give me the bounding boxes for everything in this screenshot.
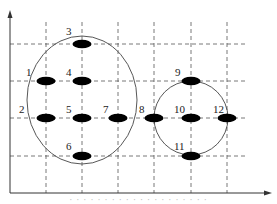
node-label: 8 — [139, 103, 145, 115]
node-marker-icon — [109, 114, 128, 123]
node-label: 11 — [174, 140, 185, 152]
node-marker-icon — [37, 114, 56, 123]
dashed-grid — [10, 22, 245, 193]
cluster-diagram: 123456789101112 — [0, 0, 277, 204]
node-1: 1 — [26, 66, 56, 85]
node-12: 12 — [213, 103, 237, 122]
node-marker-icon — [73, 40, 92, 49]
node-marker-icon — [145, 114, 164, 123]
node-label: 10 — [174, 103, 186, 115]
node-marker-icon — [73, 114, 92, 123]
node-label: 5 — [66, 103, 72, 115]
node-2: 2 — [19, 103, 56, 122]
node-label: 6 — [66, 140, 72, 152]
nodes: 123456789101112 — [19, 25, 237, 160]
node-marker-icon — [73, 77, 92, 86]
node-marker-icon — [37, 77, 56, 86]
cluster-outlines — [27, 36, 228, 164]
node-6: 6 — [66, 140, 92, 160]
node-8: 8 — [139, 103, 164, 122]
node-label: 1 — [26, 66, 32, 78]
node-label: 2 — [19, 103, 25, 115]
node-marker-icon — [182, 77, 201, 86]
node-label: 7 — [103, 103, 109, 115]
node-label: 3 — [66, 25, 72, 37]
node-10: 10 — [174, 103, 201, 122]
node-marker-icon — [73, 152, 92, 161]
node-7: 7 — [103, 103, 128, 122]
node-label: 4 — [66, 66, 72, 78]
node-label: 12 — [213, 103, 224, 115]
figure-caption: · · · · · · · · · · · · · · · · · · · · — [0, 196, 277, 204]
node-9: 9 — [175, 66, 201, 85]
x-axis-arrow-icon — [264, 191, 272, 196]
y-axis-arrow-icon — [8, 10, 13, 18]
node-marker-icon — [182, 152, 201, 161]
node-label: 9 — [175, 66, 181, 78]
node-4: 4 — [66, 66, 92, 85]
node-5: 5 — [66, 103, 92, 122]
node-11: 11 — [174, 140, 201, 160]
